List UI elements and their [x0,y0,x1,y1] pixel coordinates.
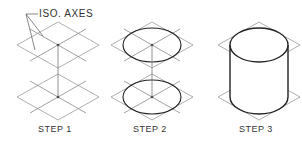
iso-axes-callout: ISO. AXES [39,8,93,19]
step2-label: STEP 2 [133,124,167,134]
step1-figure [17,14,99,120]
step3-figure [218,22,300,120]
step1-label: STEP 1 [38,124,72,134]
step3-label: STEP 3 [239,124,273,134]
step2-figure [111,22,193,120]
